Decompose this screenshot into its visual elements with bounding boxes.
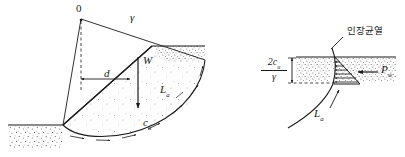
right-soil-stipple-left: [296, 58, 330, 82]
crack-depth-numerator: 2cu: [261, 57, 287, 70]
water-force-subscript: w: [388, 71, 393, 78]
right-tension-crack-geometry: [288, 37, 396, 128]
water-force-label: Pw: [381, 64, 392, 78]
weight-label: W: [143, 55, 152, 66]
radius-label: γ: [130, 12, 134, 23]
rotation-center-point: [80, 19, 83, 22]
undrained-cohesion-label-left: cu: [143, 117, 151, 131]
crack-depth-denominator: γ: [261, 71, 287, 82]
cohesion-subscript: u: [148, 124, 151, 131]
water-force-symbol: P: [381, 63, 388, 75]
crack-depth-fraction: 2cu γ: [261, 57, 287, 82]
tension-crack-label: 인장균열: [347, 26, 383, 36]
radius-line-to-toe: [63, 19, 81, 125]
arc-length-label-left: La: [160, 84, 170, 98]
right-arc-length-leader: [330, 90, 339, 108]
left-slope-geometry: [8, 19, 205, 148]
arc-length-subscript-right: a: [320, 115, 323, 122]
tension-crack-leader-line: [331, 37, 343, 49]
right-slip-surface-arc: [288, 84, 333, 128]
arc-length-label-right: La: [314, 108, 324, 122]
toe-ground-stipple: [8, 126, 63, 148]
moment-arm-label: d: [104, 68, 110, 79]
crack-depth-numerator-subscript: u: [277, 63, 280, 70]
slope-stability-figure: 0 γ d W La cu 인장균열 2cu γ Pw La: [0, 0, 405, 157]
crack-depth-numerator-symbol: 2c: [268, 56, 277, 67]
rotation-center-label: 0: [76, 3, 82, 14]
figure-vector-canvas: [0, 0, 405, 157]
arc-length-subscript: a: [166, 91, 169, 98]
